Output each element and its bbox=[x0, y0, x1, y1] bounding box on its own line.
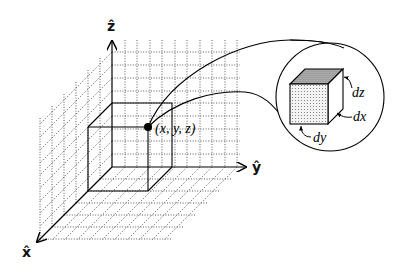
xy-plane-grid bbox=[40, 167, 237, 240]
z-axis-label: ẑ bbox=[107, 18, 115, 34]
xz-plane-grid bbox=[40, 52, 112, 239]
cube-front-face bbox=[290, 84, 328, 124]
volume-element-diagram: ẑ ŷ x̂ (x, y, z) dz dx dy bbox=[0, 0, 397, 273]
point-marker bbox=[144, 123, 152, 131]
dx-label: dx bbox=[353, 109, 367, 124]
point-label: (x, y, z) bbox=[155, 121, 196, 137]
y-axis-label: ŷ bbox=[252, 159, 261, 175]
dz-label: dz bbox=[352, 85, 365, 100]
x-axis-label: x̂ bbox=[22, 244, 31, 260]
dy-label: dy bbox=[313, 130, 327, 145]
volume-element-cube bbox=[290, 69, 343, 124]
axes bbox=[37, 41, 246, 242]
